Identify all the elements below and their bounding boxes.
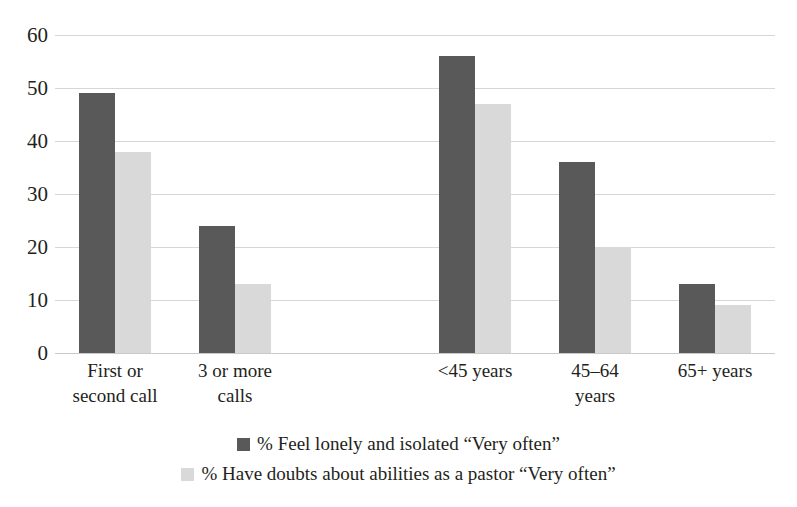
gridline xyxy=(55,88,775,89)
gridline xyxy=(55,247,775,248)
y-tick-label: 30 xyxy=(0,184,48,205)
gridline xyxy=(55,353,775,354)
y-tick-label: 10 xyxy=(0,290,48,311)
bar xyxy=(715,305,751,353)
x-category-label: <45 years xyxy=(415,358,535,383)
legend-swatch-icon xyxy=(181,468,194,481)
bar xyxy=(115,152,151,353)
gridline xyxy=(55,141,775,142)
legend-item[interactable]: % Feel lonely and isolated “Very often” xyxy=(0,428,797,458)
x-category-label-line: 3 or more xyxy=(175,358,295,383)
bar xyxy=(475,104,511,353)
x-category-label: First orsecond call xyxy=(55,358,175,408)
legend-swatch-icon xyxy=(237,438,250,451)
x-category-label: 3 or morecalls xyxy=(175,358,295,408)
bar-chart-figure: 6050403020100 First orsecond call3 or mo… xyxy=(0,0,797,507)
legend-item-label: % Feel lonely and isolated “Very often” xyxy=(257,434,560,453)
gridline xyxy=(55,300,775,301)
legend-item[interactable]: % Have doubts about abilities as a pasto… xyxy=(0,458,797,488)
x-category-label-line: 45–64 xyxy=(535,358,655,383)
plot-area xyxy=(55,35,775,353)
gridline xyxy=(55,194,775,195)
chart-title xyxy=(0,0,797,6)
y-axis: 6050403020100 xyxy=(0,35,48,353)
y-tick-label: 50 xyxy=(0,78,48,99)
x-category-label: 65+ years xyxy=(655,358,775,383)
bar xyxy=(79,93,115,353)
chart-legend: % Feel lonely and isolated “Very often”%… xyxy=(0,428,797,488)
legend-item-label: % Have doubts about abilities as a pasto… xyxy=(201,464,615,483)
y-tick-label: 60 xyxy=(0,25,48,46)
bar xyxy=(559,162,595,353)
x-category-label-line: second call xyxy=(55,383,175,408)
gridline xyxy=(55,35,775,36)
bar xyxy=(439,56,475,353)
y-tick-label: 20 xyxy=(0,237,48,258)
x-axis: First orsecond call3 or morecalls<45 yea… xyxy=(55,358,775,418)
bar xyxy=(235,284,271,353)
x-category-label-line: calls xyxy=(175,383,295,408)
bar xyxy=(595,247,631,353)
y-tick-label: 40 xyxy=(0,131,48,152)
bar xyxy=(199,226,235,353)
x-category-label-line: First or xyxy=(55,358,175,383)
x-category-label: 45–64years xyxy=(535,358,655,408)
bar xyxy=(679,284,715,353)
x-category-label-line: years xyxy=(535,383,655,408)
y-tick-label: 0 xyxy=(0,343,48,364)
x-category-label-line: 65+ years xyxy=(655,358,775,383)
x-category-label-line: <45 years xyxy=(415,358,535,383)
